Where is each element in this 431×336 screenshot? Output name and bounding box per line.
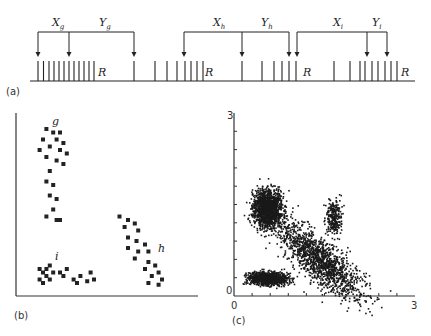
arrow-down-icon — [287, 52, 292, 57]
reset-label: R — [97, 66, 106, 79]
data-point-h — [123, 225, 127, 229]
data-point-g — [58, 148, 62, 152]
data-point-h — [146, 281, 150, 285]
data-point-h — [146, 260, 150, 264]
panel-b-scatter: ghi — [16, 113, 198, 296]
panel-a-spike-train: RRRRXgYgXhYhXiYi — [30, 16, 415, 81]
panel-c-y-max-label: 3 — [227, 110, 233, 121]
data-point-g — [58, 131, 62, 135]
data-point-h — [133, 222, 137, 226]
data-point-i — [38, 267, 42, 271]
cluster-label: g — [52, 115, 59, 128]
data-point-g — [51, 183, 55, 187]
data-point-g — [61, 141, 65, 145]
data-point-i — [41, 281, 45, 285]
reset-label: R — [400, 66, 409, 79]
arrow-down-icon — [295, 52, 300, 57]
data-point-i — [75, 281, 79, 285]
data-point-h — [143, 243, 147, 247]
interval-bracket — [38, 32, 134, 53]
panel-b-label: (b) — [14, 310, 28, 321]
data-point-h — [146, 250, 150, 254]
data-point-i — [72, 278, 76, 282]
data-point-i — [51, 271, 55, 275]
arrow-down-icon — [67, 52, 72, 57]
figure-canvas: RRRRXgYgXhYhXiYi (a) ghi (b) 3 0 0 3 (c) — [0, 0, 431, 336]
data-point-g — [55, 138, 59, 142]
data-point-g — [48, 194, 52, 198]
data-point-h — [126, 246, 130, 250]
data-point-i — [78, 274, 82, 278]
data-point-g — [55, 159, 59, 163]
data-point-i — [65, 267, 69, 271]
arrow-down-icon — [385, 52, 390, 57]
arrow-down-icon — [182, 52, 187, 57]
arrow-down-icon — [365, 52, 370, 57]
reset-label: R — [302, 66, 311, 79]
data-point-i — [85, 279, 89, 283]
panel-c-scatter: 3 0 0 3 — [226, 110, 417, 316]
data-point-g — [48, 145, 52, 149]
cluster-label: h — [158, 242, 165, 255]
data-point-i — [89, 271, 93, 275]
data-point-i — [44, 267, 48, 271]
data-point-h — [136, 250, 140, 254]
data-point-h — [157, 283, 161, 287]
data-point-i — [44, 274, 48, 278]
panel-b-cluster-labels: ghi — [52, 115, 165, 263]
interval-y-label: Yh — [261, 16, 273, 31]
arrow-down-icon — [36, 52, 41, 57]
interval-y-label: Yi — [372, 16, 382, 31]
arrow-down-icon — [132, 52, 137, 57]
data-point-h — [143, 267, 147, 271]
interval-bracket — [297, 32, 387, 53]
data-point-g — [55, 197, 59, 201]
data-point-i — [92, 278, 96, 282]
cluster-label: i — [55, 250, 59, 263]
data-point-h — [150, 274, 154, 278]
panel-c-x-max-label: 3 — [411, 300, 417, 311]
data-point-h — [135, 239, 139, 243]
data-point-g — [44, 127, 48, 131]
panel-a-label: (a) — [6, 86, 20, 97]
panel-c-x-min-label: 0 — [231, 300, 237, 311]
data-point-h — [136, 229, 140, 233]
data-point-i — [41, 271, 45, 275]
data-point-g — [44, 155, 48, 159]
arrow-down-icon — [240, 52, 245, 57]
data-point-g — [51, 131, 55, 135]
data-point-h — [126, 218, 130, 222]
data-point-g — [44, 215, 48, 219]
interval-y-label: Yg — [99, 16, 111, 31]
reset-label: R — [204, 66, 213, 79]
data-point-h — [153, 264, 157, 268]
data-point-g — [58, 218, 62, 222]
data-point-i — [48, 278, 52, 282]
data-point-g — [48, 169, 52, 173]
interval-x-label: Xg — [51, 16, 65, 31]
data-point-g — [65, 152, 69, 156]
interval-x-label: Xi — [332, 16, 343, 31]
interval-bracket — [184, 32, 289, 53]
data-point-h — [133, 257, 137, 261]
data-point-h — [126, 236, 130, 240]
data-point-i — [48, 264, 52, 268]
data-point-h — [157, 271, 161, 275]
data-point-i — [61, 274, 65, 278]
data-point-h — [118, 215, 122, 219]
data-point-h — [160, 278, 164, 282]
panel-c-label: (c) — [232, 315, 245, 326]
data-point-g — [38, 148, 42, 152]
interval-x-label: Xh — [212, 16, 225, 31]
data-point-g — [41, 138, 45, 142]
data-point-g — [61, 162, 65, 166]
data-point-g — [44, 180, 48, 184]
data-point-i — [58, 271, 62, 275]
panel-c-y-min-label: 0 — [226, 285, 232, 296]
data-point-i — [38, 278, 42, 282]
data-point-g — [51, 208, 55, 212]
